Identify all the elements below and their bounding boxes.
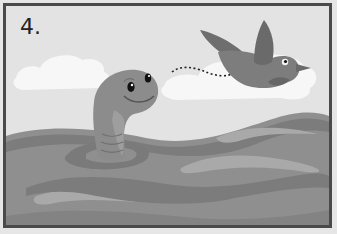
worm-eye-left: [127, 82, 134, 92]
worm-eye-right: [145, 73, 151, 82]
scene-illustration: [6, 6, 329, 225]
panel-number: 4.: [20, 16, 41, 38]
illustration-panel: 4.: [3, 3, 332, 228]
